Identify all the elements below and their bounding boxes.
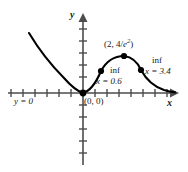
y-axis-label: y [70,10,74,20]
asymptote-label: y = 0 [14,97,33,106]
y-axis-arrowhead [79,13,88,22]
origin-label: (0, 0) [84,97,104,106]
inflection-left-label-line1: inf [110,66,120,75]
axes-group [8,13,179,165]
graph-figure: y x (2, 4/e2) (0, 0) y = 0 inf x = 0.6 i… [0,0,188,172]
inflection-right-label-line1: inf [152,56,162,65]
local-maximum-label: (2, 4/e2) [104,40,133,49]
inflection-right-label-line2: x = 3.4 [145,67,171,76]
inflection-left-label-line2: x = 0.6 [96,77,122,86]
x-axis-label: x [167,98,172,108]
point-local-maximum [121,53,127,59]
point-inflection-left [98,68,104,74]
local-maximum-label-prefix: (2, 4/ [104,39,123,49]
graph-canvas [0,0,188,172]
local-maximum-label-suffix: ) [130,39,133,49]
point-inflection-right [138,67,144,73]
